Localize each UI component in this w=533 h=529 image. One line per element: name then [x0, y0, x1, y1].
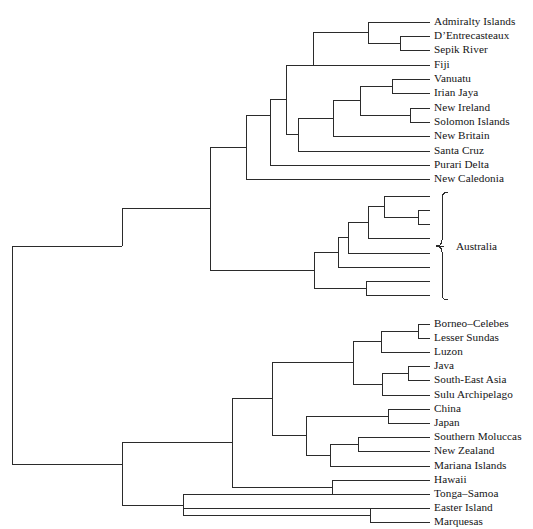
tip-label-new-zealand: New Zealand — [434, 445, 495, 456]
tip-label-japan: Japan — [434, 417, 460, 428]
tip-label-irian-jaya: Irian Jaya — [434, 87, 478, 98]
tip-label-lesser-sundas: Lesser Sundas — [434, 332, 499, 343]
tip-label-sepik-river: Sepik River — [434, 44, 488, 55]
tip-label-dentrecasteaux: D’Entrecasteaux — [434, 30, 509, 41]
tip-label-south-east-asia: South-East Asia — [434, 374, 507, 385]
tip-label-admiralty-islands: Admiralty Islands — [434, 16, 515, 27]
tip-label-marquesas: Marquesas — [434, 516, 483, 527]
group-label-australia: Australia — [456, 240, 497, 252]
tip-label-new-ireland: New Ireland — [434, 102, 490, 113]
tip-label-luzon: Luzon — [434, 346, 463, 357]
tip-label-fiji: Fiji — [434, 59, 450, 70]
tip-label-easter-island: Easter Island — [434, 502, 493, 513]
tip-label-santa-cruz: Santa Cruz — [434, 145, 484, 156]
tip-label-southern-moluccas: Southern Moluccas — [434, 431, 522, 442]
tip-label-hawaii: Hawaii — [434, 474, 467, 485]
tip-label-java: Java — [434, 360, 454, 371]
tip-label-vanuatu: Vanuatu — [434, 73, 471, 84]
tip-label-purari-delta: Purari Delta — [434, 159, 489, 170]
tip-label-solomon-islands: Solomon Islands — [434, 116, 510, 127]
tip-label-new-britain: New Britain — [434, 130, 490, 141]
tip-label-new-caledonia: New Caledonia — [434, 173, 504, 184]
tip-label-china: China — [434, 403, 461, 414]
tip-label-sulu-archipelago: Sulu Archipelago — [434, 389, 513, 400]
tip-label-mariana-islands: Mariana Islands — [434, 460, 507, 471]
tip-label-borneo-celebes: Borneo–Celebes — [434, 318, 509, 329]
dendrogram-figure: Admiralty Islands D’Entrecasteaux Sepik … — [0, 0, 533, 529]
tip-label-tonga-samoa: Tonga–Samoa — [434, 488, 498, 499]
tree-branches — [12, 22, 448, 522]
